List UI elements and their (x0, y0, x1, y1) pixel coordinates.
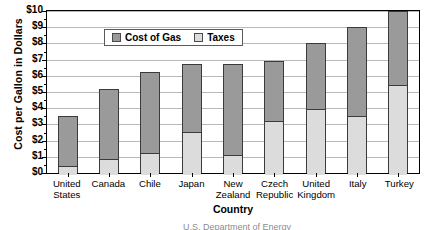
y-axis-tick-label: $2 (9, 134, 43, 145)
legend-label-taxes: Taxes (207, 32, 235, 43)
category-label-line: Republic (254, 189, 296, 200)
x-axis-category-turkey: Turkey (379, 178, 421, 200)
bar-turkey[interactable] (388, 11, 408, 173)
y-axis-tick-label: $6 (9, 69, 43, 80)
category-label-line: Zealand (212, 189, 254, 200)
y-axis-tick-label: $10 (9, 4, 43, 15)
plot-area: Cost of Gas Taxes (46, 10, 420, 174)
bar-segment-cost-of-gas[interactable] (224, 65, 242, 154)
x-axis-tick (233, 173, 234, 177)
bar-new-zealand[interactable] (223, 64, 243, 173)
bar-chart: Cost per Gallon in Dollars Cost of Gas T… (0, 0, 427, 230)
source-note-right: U.S. Department of Energy (183, 222, 291, 230)
x-axis-category-united-states: UnitedStates (46, 178, 88, 200)
y-axis-tick-label: $9 (9, 20, 43, 31)
bar-slot (336, 11, 377, 173)
x-axis-tick (316, 173, 317, 177)
x-axis-category-chile: Chile (129, 178, 171, 200)
x-axis-tick (68, 173, 69, 177)
legend-item-taxes[interactable]: Taxes (194, 32, 235, 43)
x-axis-category-canada: Canada (88, 178, 130, 200)
category-label-line: Italy (337, 178, 379, 189)
source-note: U.S. Department of Energy (8, 222, 427, 230)
legend-swatch-taxes (194, 33, 203, 42)
y-axis-tick-label: $3 (9, 117, 43, 128)
category-label-line: Kingdom (295, 189, 337, 200)
bar-segment-cost-of-gas[interactable] (141, 73, 159, 153)
x-axis-tick (357, 173, 358, 177)
category-label-line: States (46, 189, 88, 200)
bar-canada[interactable] (99, 89, 119, 173)
bar-segment-cost-of-gas[interactable] (307, 44, 325, 109)
bar-slot (295, 11, 336, 173)
category-label-line: Canada (88, 178, 130, 189)
y-axis-tick-label: $7 (9, 53, 43, 64)
bar-chile[interactable] (140, 72, 160, 173)
bar-slot (254, 11, 295, 173)
x-axis-category-labels: UnitedStatesCanadaChileJapanNewZealandCz… (46, 178, 420, 200)
y-axis-tick-label: $0 (9, 166, 43, 177)
category-label-line: Turkey (379, 178, 421, 189)
bar-segment-taxes[interactable] (348, 116, 366, 175)
x-axis-tick (274, 173, 275, 177)
bar-segment-taxes[interactable] (224, 155, 242, 175)
bar-segment-taxes[interactable] (307, 109, 325, 175)
bar-slot (378, 11, 419, 173)
category-label-line: United (295, 178, 337, 189)
bar-segment-cost-of-gas[interactable] (100, 90, 118, 159)
x-axis-category-japan: Japan (171, 178, 213, 200)
y-axis-tick-label: $1 (9, 150, 43, 161)
category-label-line: Chile (129, 178, 171, 189)
bar-segment-cost-of-gas[interactable] (59, 117, 77, 166)
bar-segment-taxes[interactable] (265, 121, 283, 175)
bar-united-kingdom[interactable] (306, 43, 326, 173)
bar-segment-cost-of-gas[interactable] (183, 65, 201, 131)
legend-item-cost-of-gas[interactable]: Cost of Gas (112, 32, 181, 43)
legend: Cost of Gas Taxes (104, 29, 243, 46)
bar-slot (47, 11, 88, 173)
bar-segment-taxes[interactable] (183, 132, 201, 175)
category-label-line: Japan (171, 178, 213, 189)
category-label-line: Czech (254, 178, 296, 189)
x-axis-tick (109, 173, 110, 177)
x-axis-category-new-zealand: NewZealand (212, 178, 254, 200)
x-axis-category-czech-republic: CzechRepublic (254, 178, 296, 200)
bar-segment-taxes[interactable] (389, 85, 407, 175)
x-axis-category-italy: Italy (337, 178, 379, 200)
bar-segment-taxes[interactable] (141, 153, 159, 175)
y-axis-tick-label: $4 (9, 101, 43, 112)
x-axis-tick (192, 173, 193, 177)
bar-italy[interactable] (347, 27, 367, 173)
category-label-line: United (46, 178, 88, 189)
bar-segment-cost-of-gas[interactable] (348, 28, 366, 115)
legend-swatch-cost-of-gas (112, 33, 121, 42)
x-axis-tick (398, 173, 399, 177)
x-axis-category-united-kingdom: UnitedKingdom (295, 178, 337, 200)
x-axis-title: Country (46, 203, 420, 215)
bar-czech-republic[interactable] (264, 61, 284, 173)
bar-japan[interactable] (182, 64, 202, 173)
bar-segment-cost-of-gas[interactable] (389, 12, 407, 85)
x-axis-tick (150, 173, 151, 177)
y-axis-tick-label: $5 (9, 85, 43, 96)
legend-label-cost-of-gas: Cost of Gas (125, 32, 181, 43)
bar-segment-cost-of-gas[interactable] (265, 62, 283, 120)
y-axis-tick-label: $8 (9, 36, 43, 47)
category-label-line: New (212, 178, 254, 189)
bar-united-states[interactable] (58, 116, 78, 173)
